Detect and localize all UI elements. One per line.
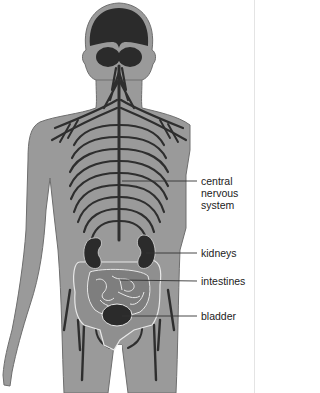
leg-gap [114, 345, 122, 393]
label-bladder: bladder [201, 310, 236, 322]
brain [90, 8, 148, 67]
cerebellum-left [96, 47, 120, 67]
label-cns-line-1: central [201, 175, 238, 187]
cerebellum-right [118, 47, 142, 67]
label-cns-line-3: system [201, 199, 238, 211]
bladder [102, 304, 132, 326]
label-cns-line-2: nervous [201, 187, 238, 199]
label-intestines: intestines [201, 275, 245, 287]
label-central-nervous-system: central nervous system [201, 175, 238, 211]
label-kidneys: kidneys [201, 247, 237, 259]
